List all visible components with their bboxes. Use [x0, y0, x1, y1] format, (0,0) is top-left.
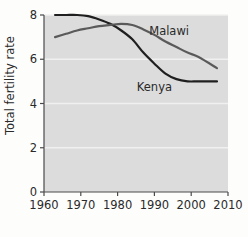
y-tick-label-6: 6 [30, 52, 37, 66]
x-tick-label-2000: 2000 [177, 198, 206, 212]
x-axis-ticks [44, 192, 228, 196]
y-tick-label-8: 8 [30, 8, 37, 22]
x-tick-label-1990: 1990 [140, 198, 169, 212]
x-tick-label-1960: 1960 [29, 198, 58, 212]
y-tick-label-4: 4 [30, 97, 37, 111]
y-axis-tick-labels: 02468 [30, 8, 37, 199]
fertility-rate-line-chart: 02468 196019701980199020002010 Total fer… [0, 0, 248, 237]
y-tick-label-0: 0 [30, 185, 37, 199]
series-label-kenya: Kenya [137, 80, 172, 94]
series-label-malawi: Malawi [149, 24, 189, 38]
y-tick-label-2: 2 [30, 141, 37, 155]
x-axis-tick-labels: 196019701980199020002010 [29, 198, 242, 212]
x-tick-label-1980: 1980 [103, 198, 132, 212]
chart-figure: 02468 196019701980199020002010 Total fer… [0, 0, 248, 237]
x-tick-label-2010: 2010 [213, 198, 242, 212]
y-axis-title: Total fertility rate [3, 36, 17, 136]
x-tick-label-1970: 1970 [66, 198, 95, 212]
